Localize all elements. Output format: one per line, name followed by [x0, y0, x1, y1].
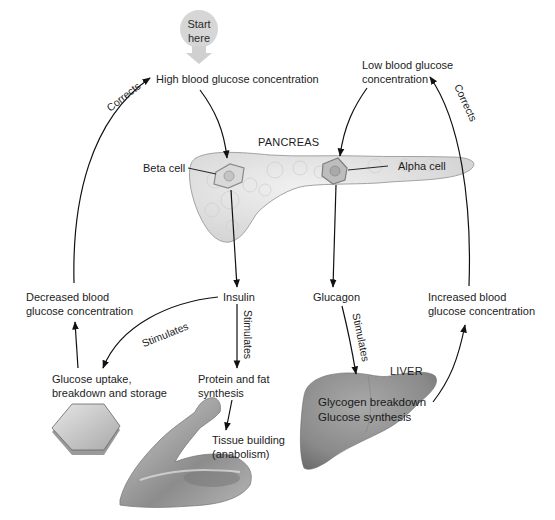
high-glucose-label: High blood glucose concentration	[156, 72, 319, 86]
liver-line1: Glycogen breakdown	[318, 395, 426, 410]
low-glucose-line2: concentration	[362, 72, 453, 86]
glucose-uptake-label: Glucose uptake, breakdown and storage	[52, 372, 167, 400]
start-label-line2: here	[179, 31, 219, 45]
decreased-line1: Decreased blood	[26, 290, 133, 304]
tissue-line2: (anabolism)	[212, 447, 285, 461]
glucagon-label: Glucagon	[313, 290, 360, 304]
decreased-line2: glucose concentration	[26, 304, 133, 318]
start-here-label: Start here	[179, 17, 219, 45]
start-label-line1: Start	[179, 17, 219, 31]
arrow-high-to-beta	[200, 90, 227, 158]
liver-process-label: Glycogen breakdown Glucose synthesis	[318, 395, 426, 425]
increased-glucose-label: Increased blood glucose concentration	[428, 290, 535, 318]
alpha-cell-label: Alpha cell	[398, 159, 446, 173]
glucose-hexagon-icon	[52, 404, 120, 455]
low-glucose-label: Low blood glucose concentration	[362, 58, 453, 86]
arrow-liver-to-increased	[433, 325, 465, 402]
increased-line1: Increased blood	[428, 290, 535, 304]
tissue-line1: Tissue building	[212, 433, 285, 447]
arrow-uptake-to-decreased	[75, 322, 78, 368]
pancreas-label: PANCREAS	[258, 135, 319, 149]
decreased-glucose-label: Decreased blood glucose concentration	[26, 290, 133, 318]
arrow-alpha-to-glucagon	[333, 185, 336, 287]
beta-cell-label: Beta cell	[143, 161, 185, 175]
liver-line2: Glucose synthesis	[318, 410, 426, 425]
liver-label: LIVER	[390, 364, 423, 378]
arrow-low-to-alpha	[340, 88, 367, 156]
uptake-line2: breakdown and storage	[52, 386, 167, 400]
stimulates-protein-label: Stimulates	[242, 310, 254, 359]
low-glucose-line1: Low blood glucose	[362, 58, 453, 72]
arrow-protein-to-tissue	[226, 400, 232, 430]
uptake-line1: Glucose uptake,	[52, 372, 167, 386]
glucose-regulation-diagram: Start here High blood glucose concentrat…	[0, 0, 555, 520]
tissue-building-label: Tissue building (anabolism)	[212, 433, 285, 461]
insulin-label: Insulin	[223, 290, 255, 304]
protein-line1: Protein and fat	[198, 372, 270, 386]
increased-line2: glucose concentration	[428, 304, 535, 318]
protein-line2: synthesis	[198, 386, 270, 400]
protein-fat-synthesis-label: Protein and fat synthesis	[198, 372, 270, 400]
